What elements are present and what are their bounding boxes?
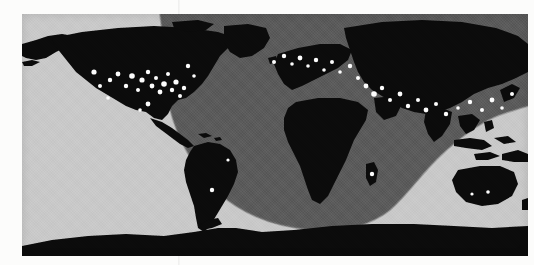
city-light — [106, 96, 110, 100]
city-light — [129, 73, 135, 79]
city-light — [150, 84, 155, 89]
city-light — [226, 158, 229, 161]
city-light — [500, 106, 504, 110]
city-light — [486, 190, 490, 194]
city-light — [146, 102, 151, 107]
city-light — [173, 79, 178, 84]
city-light — [290, 62, 294, 66]
page-fold-line-top — [178, 0, 180, 14]
city-light — [338, 70, 342, 74]
city-light — [510, 92, 514, 96]
city-light — [282, 54, 286, 58]
city-light — [456, 106, 460, 110]
city-light — [154, 76, 158, 80]
city-light — [356, 76, 360, 80]
city-light — [124, 84, 128, 88]
city-light — [170, 88, 174, 92]
land-new-zealand — [522, 198, 528, 210]
world-map-svg — [22, 14, 528, 256]
city-light — [480, 108, 484, 112]
city-light — [146, 70, 150, 74]
city-light — [108, 78, 112, 82]
city-light — [166, 72, 170, 76]
city-light — [116, 72, 121, 77]
city-light — [322, 68, 326, 72]
figure-bottom-rule — [22, 252, 528, 256]
city-light — [314, 58, 318, 62]
city-light — [136, 88, 140, 92]
city-light — [186, 64, 190, 68]
scanned-page — [0, 0, 534, 265]
city-light — [370, 172, 374, 176]
city-light — [192, 74, 196, 78]
city-light — [398, 92, 403, 97]
city-light — [416, 98, 420, 102]
city-light — [272, 60, 276, 64]
city-light — [388, 98, 392, 102]
city-light — [161, 81, 167, 87]
world-map-figure — [22, 14, 528, 256]
city-light — [380, 86, 384, 90]
city-light — [91, 69, 96, 74]
city-light — [330, 60, 334, 64]
city-light — [371, 91, 377, 97]
city-light — [468, 100, 472, 104]
city-light — [298, 56, 303, 61]
page-fold-line-bottom — [178, 255, 180, 265]
city-light — [364, 84, 369, 89]
city-light — [470, 192, 473, 195]
city-light — [444, 112, 448, 116]
city-light — [210, 188, 214, 192]
city-light — [139, 77, 144, 82]
city-light — [138, 108, 142, 112]
city-light — [306, 64, 310, 68]
city-light — [158, 90, 163, 95]
city-light — [182, 86, 186, 90]
city-light — [98, 84, 102, 88]
city-light — [406, 104, 410, 108]
city-light — [424, 108, 429, 113]
city-light — [490, 98, 495, 103]
city-light — [178, 94, 182, 98]
city-light — [434, 102, 438, 106]
city-light — [348, 64, 352, 68]
